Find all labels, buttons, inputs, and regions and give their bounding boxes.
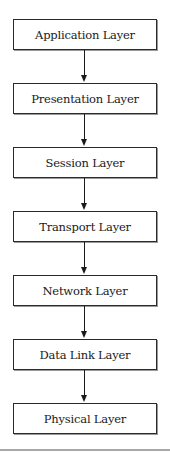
layer-label: Data Link Layer bbox=[40, 348, 131, 362]
layer-label: Application Layer bbox=[35, 28, 135, 42]
arrow-down-icon bbox=[81, 331, 87, 338]
layer-label: Physical Layer bbox=[44, 412, 126, 426]
layer-box-network: Network Layer bbox=[13, 275, 157, 306]
layer-label: Session Layer bbox=[46, 156, 125, 170]
arrow-line bbox=[84, 178, 85, 204]
layer-label: Transport Layer bbox=[39, 220, 131, 234]
arrow-down-icon bbox=[81, 203, 87, 210]
layer-box-physical: Physical Layer bbox=[13, 403, 157, 434]
layer-label: Presentation Layer bbox=[31, 92, 139, 106]
layer-label: Network Layer bbox=[42, 284, 127, 298]
arrow-down-icon bbox=[81, 395, 87, 402]
arrow-line bbox=[84, 50, 85, 76]
arrow-down-icon bbox=[81, 267, 87, 274]
arrow-line bbox=[84, 306, 85, 332]
layer-box-session: Session Layer bbox=[13, 147, 157, 178]
arrow-line bbox=[84, 370, 85, 396]
arrow-down-icon bbox=[81, 75, 87, 82]
bottom-divider bbox=[0, 449, 170, 451]
arrow-line bbox=[84, 242, 85, 268]
layer-box-transport: Transport Layer bbox=[13, 211, 157, 242]
arrow-line bbox=[84, 114, 85, 140]
layer-box-presentation: Presentation Layer bbox=[13, 83, 157, 114]
arrow-down-icon bbox=[81, 139, 87, 146]
layer-box-data-link: Data Link Layer bbox=[13, 339, 157, 370]
layer-box-application: Application Layer bbox=[13, 19, 157, 50]
